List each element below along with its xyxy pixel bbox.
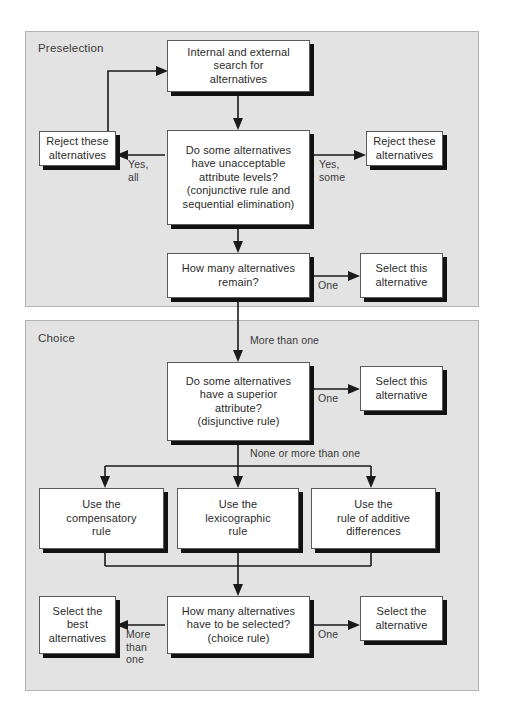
edge-label-one-remain: One [318, 279, 338, 292]
edge-label-yes-some: Yes, some [319, 158, 345, 183]
node-label: Select the alternative [371, 602, 433, 635]
node-use-rule-of-additive-differences[interactable]: Use the rule of additive differences [311, 488, 436, 549]
edge-label-more-than-one-bottom: More than one [126, 628, 150, 666]
node-how-many-alternatives-selected[interactable]: How many alternatives have to be selecte… [167, 596, 310, 654]
node-label: Do some alternatives have unacceptable a… [178, 141, 300, 214]
node-label: Use the lexicographic rule [200, 495, 276, 541]
edge-label-one-superior: One [318, 392, 338, 405]
panel-title-choice: Choice [38, 332, 75, 344]
node-label: Use the compensatory rule [61, 495, 141, 541]
node-select-this-alternative-1[interactable]: Select this alternative [360, 253, 443, 298]
edge-label-yes-all: Yes, all [128, 158, 148, 183]
node-internal-external-search[interactable]: Internal and external search for alterna… [167, 40, 310, 92]
node-label: Select the best alternatives [44, 602, 111, 648]
node-label: How many alternatives have to be selecte… [177, 602, 300, 648]
node-reject-these-alternatives-right[interactable]: Reject these alternatives [366, 131, 443, 166]
node-label: Select this alternative [371, 372, 433, 405]
node-label: How many alternatives remain? [177, 259, 300, 292]
node-label: Use the rule of additive differences [332, 495, 415, 541]
node-label: Reject these alternatives [368, 132, 440, 165]
node-label: Internal and external search for alterna… [182, 43, 294, 89]
edge-label-none-or-more-than-one: None or more than one [250, 447, 360, 460]
node-how-many-alternatives-remain[interactable]: How many alternatives remain? [167, 253, 310, 298]
node-select-this-alternative-2[interactable]: Select this alternative [360, 366, 443, 411]
edge-label-one-selected: One [318, 628, 338, 641]
node-label: Do some alternatives have a superior att… [181, 372, 296, 432]
panel-title-preselection: Preselection [38, 42, 104, 54]
node-superior-attribute[interactable]: Do some alternatives have a superior att… [167, 362, 310, 441]
flowchart-canvas: Preselection Choice [0, 0, 505, 719]
node-reject-these-alternatives-left[interactable]: Reject these alternatives [39, 131, 116, 166]
node-select-the-best-alternatives[interactable]: Select the best alternatives [39, 596, 116, 654]
edge-label-more-than-one-top: More than one [250, 334, 319, 347]
node-label: Select this alternative [371, 259, 433, 292]
node-label: Reject these alternatives [41, 132, 113, 165]
node-use-compensatory-rule[interactable]: Use the compensatory rule [39, 488, 164, 549]
node-use-lexicographic-rule[interactable]: Use the lexicographic rule [177, 488, 299, 549]
node-select-the-alternative[interactable]: Select the alternative [360, 596, 443, 641]
node-unacceptable-attribute-levels[interactable]: Do some alternatives have unacceptable a… [167, 130, 310, 225]
